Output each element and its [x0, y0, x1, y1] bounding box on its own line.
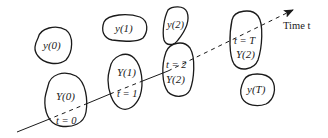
label-Y1-bottom: t = 1 [117, 89, 138, 100]
label-y1: y(1) [115, 23, 133, 34]
label-Y2-top: t = 2 [166, 60, 187, 71]
label-YT-bottom: Y(2) [236, 49, 255, 60]
label-Y1-top: Y(1) [117, 67, 136, 78]
blob-Y1 [108, 54, 142, 109]
label-y2: y(2) [167, 20, 184, 31]
time-axis-label: Time t [283, 21, 310, 32]
time-axis-line [17, 10, 293, 132]
label-Y2-bottom: Y(2) [166, 74, 185, 85]
time-axis-diagram [0, 0, 328, 138]
label-Y0-bottom: t = 0 [56, 116, 77, 127]
label-y0: y(0) [43, 40, 61, 51]
label-Y0-top: Y(0) [56, 91, 75, 102]
label-yT: y(T) [247, 84, 265, 95]
label-YT-top: t = T [234, 36, 255, 47]
